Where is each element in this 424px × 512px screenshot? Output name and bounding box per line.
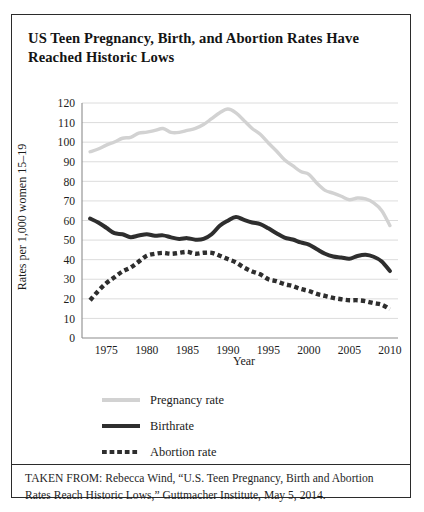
y-axis-tick-labels: 0102030405060708090100110120 [58, 97, 76, 345]
legend-item-abortion-rate: Abortion rate [102, 439, 362, 465]
legend-line-icon-birthrate [102, 420, 140, 432]
figure-card: US Teen Pregnancy, Birth, and Abortion R… [11, 14, 411, 498]
source-caption: TAKEN FROM: Rebecca Wind, “U.S. Teen Pre… [25, 471, 397, 505]
y-tick-label: 50 [63, 234, 75, 247]
legend-item-pregnancy-rate: Pregnancy rate [102, 387, 362, 413]
x-tick-label: 1980 [135, 344, 158, 357]
chart-region: 0102030405060708090100110120 19751980198… [12, 77, 410, 377]
x-tick-label: 1995 [257, 344, 280, 357]
legend-label-abortion: Abortion rate [150, 445, 216, 460]
x-tick-label: 2010 [378, 344, 401, 357]
series-line-abortion-rate [90, 252, 390, 309]
legend-item-birthrate: Birthrate [102, 413, 362, 439]
y-tick-label: 40 [63, 254, 75, 267]
y-tick-label: 110 [58, 117, 75, 130]
figure-title: US Teen Pregnancy, Birth, and Abortion R… [28, 29, 388, 68]
x-tick-label: 2005 [338, 344, 361, 357]
chart-legend: Pregnancy rate Birthrate Abortion rate [102, 387, 362, 465]
y-tick-label: 20 [63, 293, 75, 306]
y-tick-label: 90 [63, 156, 75, 169]
y-tick-label: 10 [63, 313, 75, 326]
x-tick-label: 1975 [95, 344, 118, 357]
legend-line-icon-abortion [102, 446, 140, 458]
gridlines [82, 103, 398, 318]
legend-label-birthrate: Birthrate [150, 419, 194, 434]
y-tick-label: 60 [63, 215, 75, 228]
x-axis-label: Year [233, 354, 255, 368]
y-tick-label: 70 [63, 195, 75, 208]
x-tick-label: 1985 [176, 344, 199, 357]
y-tick-label: 120 [58, 97, 76, 110]
legend-line-icon-pregnancy [102, 394, 140, 406]
y-tick-label: 30 [63, 273, 75, 286]
x-tick-label: 2000 [297, 344, 320, 357]
line-chart: 0102030405060708090100110120 19751980198… [12, 77, 410, 377]
y-axis-label: Rates per 1,000 women 15–19 [15, 144, 29, 290]
y-tick-label: 80 [63, 176, 75, 189]
y-tick-label: 100 [58, 136, 76, 149]
series-line-pregnancy-rate [90, 109, 390, 226]
legend-label-pregnancy: Pregnancy rate [150, 393, 224, 408]
y-tick-label: 0 [69, 332, 75, 345]
caption-divider [12, 464, 410, 465]
